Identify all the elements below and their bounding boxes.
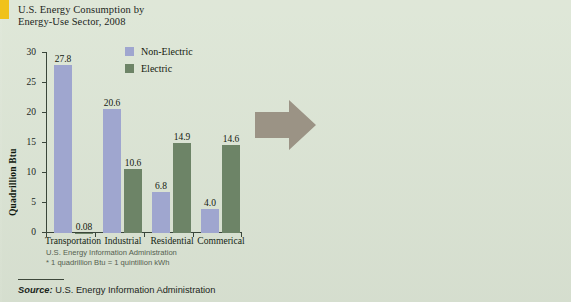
bar-value-electric-transportation: 0.08	[76, 222, 93, 232]
y-tick-label-30: 30	[27, 47, 37, 57]
bar-non-electric-industrial: 20.6	[103, 109, 121, 233]
bar-electric-transportation: 0.08	[75, 233, 93, 234]
left-chart-panel: U.S. Energy Consumption by Energy-Use Se…	[0, 0, 285, 302]
bar-value-electric-commerical: 14.6	[223, 134, 240, 144]
y-tick-5: 5	[42, 202, 46, 203]
left-chart-y-axis-title: Quadrillion Btu	[8, 66, 18, 216]
source-text: U.S. Energy Information Administration	[55, 285, 215, 295]
left-chart-y-axis	[46, 52, 47, 233]
bar-value-non-electric-residential: 6.8	[155, 181, 167, 191]
bar-value-non-electric-industrial: 20.6	[104, 98, 121, 108]
x-category-transportation: Transportation	[45, 235, 101, 246]
x-category-industrial: Industrial	[105, 235, 142, 246]
y-tick-label-15: 15	[27, 137, 37, 147]
bar-value-electric-industrial: 10.6	[125, 158, 142, 168]
x-category-residential: Residential	[150, 235, 193, 246]
left-chart-title-line1: U.S. Energy Consumption by	[18, 4, 144, 15]
y-tick-label-20: 20	[27, 107, 37, 117]
y-tick-label-0: 0	[31, 227, 36, 237]
source-divider	[18, 279, 64, 280]
left-chart-title: U.S. Energy Consumption by Energy-Use Se…	[18, 4, 218, 29]
y-tick-10: 10	[42, 172, 46, 173]
note-line-1: U.S. Energy Information Administration	[46, 248, 177, 258]
y-tick-25: 25	[42, 82, 46, 83]
right-chart-panel: Resulting Carbon Dioxide emissions by En…	[285, 0, 571, 302]
bar-non-electric-residential: 6.8	[152, 192, 170, 233]
x-tick-2	[144, 233, 145, 237]
bar-electric-industrial: 10.6	[124, 169, 142, 233]
left-chart-note: U.S. Energy Information Administration *…	[46, 248, 177, 268]
left-chart-title-line2: Energy-Use Sector, 2008	[18, 16, 126, 27]
left-chart-plot-area: Quadrillion Btu 0 5 10 15 20 25 30 27.8 …	[46, 52, 242, 233]
y-tick-20: 20	[42, 112, 46, 113]
source-prefix: Source:	[18, 285, 53, 295]
x-category-commerical: Commerical	[197, 235, 244, 246]
y-tick-label-10: 10	[27, 167, 37, 177]
bar-value-electric-residential: 14.9	[174, 132, 191, 142]
bar-non-electric-commerical: 4.0	[201, 209, 219, 233]
bar-value-non-electric-transportation: 27.8	[55, 54, 72, 64]
figure-page: U.S. Energy Consumption by Energy-Use Se…	[0, 0, 571, 302]
source-line: Source: U.S. Energy Information Administ…	[18, 285, 215, 295]
y-tick-label-5: 5	[31, 197, 36, 207]
bar-non-electric-transportation: 27.8	[54, 65, 72, 233]
note-line-2: * 1 quadrillion Btu = 1 quintillion kWh	[46, 258, 177, 268]
y-tick-label-25: 25	[27, 77, 37, 87]
y-tick-30: 30	[42, 52, 46, 53]
bar-electric-commerical: 14.6	[222, 145, 240, 233]
y-tick-15: 15	[42, 142, 46, 143]
bar-value-non-electric-commerical: 4.0	[204, 198, 216, 208]
bar-electric-residential: 14.9	[173, 143, 191, 233]
